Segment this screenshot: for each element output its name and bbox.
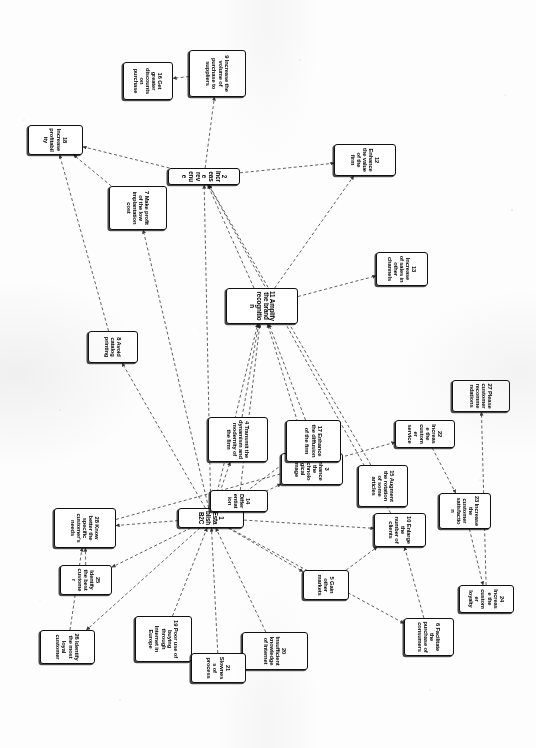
diagram-node-7[interactable]: 7 Make profit of the low implantation co… <box>109 186 167 230</box>
diagram-node-label: 13 Increase of sales in other channels <box>387 255 418 283</box>
diagram-node-17[interactable]: 17 Enhance the diffusion of the firm <box>286 420 341 462</box>
diagram-node-label: 12 Enhance the value of the firm <box>350 147 381 173</box>
diagram-canvas: 1 Establish B2C2 Increase revenue3 Enhan… <box>0 0 536 748</box>
diagram-node-label: 11 Amplify the brand recognition <box>249 291 276 321</box>
diagram-node-27[interactable]: 27 Please customer recommendations <box>452 380 510 412</box>
diagram-node-label: 17 Enhance the diffusion of the firm <box>304 423 322 459</box>
connector-n1-to-n8 <box>122 363 205 508</box>
diagram-node-label: 24 Increase the customer loyalty <box>468 588 505 610</box>
connector-n6-to-n10 <box>405 547 424 618</box>
diagram-node-label: 9 Increase the volume of purchase to sup… <box>205 53 230 94</box>
diagram-node-label: 22 Increase the customer service <box>407 423 444 445</box>
diagram-node-20[interactable]: 20 Insufficient knowledge of Internet <box>242 632 308 670</box>
diagram-node-4[interactable]: 4 Transmit the dynamism and modernity of… <box>208 417 268 462</box>
diagram-node-label: 6 Facilitate the purchase of consumers <box>417 621 442 653</box>
diagram-node-2[interactable]: 2 Increase revenue <box>168 168 240 185</box>
diagram-node-label: 21 Slowness of process <box>206 656 231 680</box>
diagram-node-label: 2 Increase revenue <box>181 171 228 182</box>
diagram-node-25[interactable]: 25 Identify the best customer <box>60 565 112 595</box>
diagram-node-23[interactable]: 23 Increase the customer satisfaction <box>439 493 491 529</box>
diagram-node-6[interactable]: 6 Facilitate the purchase of consumers <box>404 618 454 656</box>
connector-n23-to-n24 <box>469 529 483 585</box>
diagram-node-label: 18 Increase profitability <box>43 128 68 152</box>
diagram-node-label: 15 Augment the rotation of some articles <box>371 468 396 504</box>
connector-n11-to-n2 <box>208 185 254 288</box>
diagram-node-label: 4 Transmit the dynamism and modernity of… <box>226 420 251 459</box>
connector-n9-to-n16 <box>173 77 189 79</box>
connector-n1-to-n5 <box>228 528 303 572</box>
connector-n1-to-n7 <box>143 230 208 508</box>
diagram-node-26[interactable]: 26 Identify the most loyal customer <box>40 630 95 664</box>
connector-n17-to-n11 <box>269 324 306 420</box>
connector-n1-to-n25 <box>112 528 191 567</box>
connector-n11-to-n12 <box>275 176 354 288</box>
diagram-node-label: 20 Insufficient knowledge of Internet <box>263 635 288 667</box>
diagram-node-label: 16 Get greater discounts on purchase <box>133 65 164 97</box>
diagram-node-14[interactable]: 14 Differentiation <box>210 490 268 512</box>
diagram-node-label: 27 Please customer recommendations <box>469 383 494 409</box>
diagram-node-5[interactable]: 5 Gain other markets <box>303 570 349 600</box>
diagram-node-label: 28 Know better the specific customer's n… <box>70 511 101 545</box>
connector-n8-to-n18 <box>60 155 109 331</box>
connector-n11-to-n13 <box>298 276 376 297</box>
diagram-node-18[interactable]: 18 Increase profitability <box>28 125 83 155</box>
diagram-node-21[interactable]: 21 Slowness of process <box>191 653 246 683</box>
diagram-node-label: 7 Make profit of the low implantation co… <box>126 189 151 227</box>
diagram-node-label: 8 Avoid catalog printing <box>104 334 122 360</box>
diagram-node-11[interactable]: 11 Amplify the brand recognition <box>226 288 298 324</box>
connector-n5-to-n10 <box>346 547 377 570</box>
diagram-node-label: 5 Gain other markets <box>317 573 335 597</box>
diagram-node-24[interactable]: 24 Increase the customer loyalty <box>459 585 514 613</box>
diagram-node-15[interactable]: 15 Augment the rotation of some articles <box>358 465 408 507</box>
diagram-node-16[interactable]: 16 Get greater discounts on purchase <box>123 62 173 100</box>
scanned-page: 1 Establish B2C2 Increase revenue3 Enhan… <box>0 0 536 748</box>
diagram-node-label: 25 Identify the best customer <box>71 568 102 592</box>
diagram-node-9[interactable]: 9 Increase the volume of purchase to sup… <box>189 50 246 97</box>
diagram-node-label: 1 Establish B2C <box>198 511 225 525</box>
diagram-node-13[interactable]: 13 Increase of sales in other channels <box>376 252 428 286</box>
diagram-node-12[interactable]: 12 Enhance the value of the firm <box>334 144 396 176</box>
connector-n1-to-n10 <box>244 520 374 528</box>
connector-n1-to-n11 <box>213 324 257 508</box>
connector-n2-to-n18 <box>83 147 169 168</box>
connector-n19-to-n1 <box>173 528 208 616</box>
diagram-node-label: 10 Enlarge the number of clients <box>388 516 413 544</box>
diagram-node-22[interactable]: 22 Increase the customer service <box>395 420 455 448</box>
diagram-rotor: 1 Establish B2C2 Increase revenue3 Enhan… <box>0 0 536 748</box>
diagram-node-28[interactable]: 28 Know better the specific customer's n… <box>54 508 116 548</box>
diagram-node-8[interactable]: 8 Avoid catalog printing <box>88 331 138 363</box>
connector-n7-to-n18 <box>74 155 112 186</box>
connector-n2-to-n12 <box>240 163 334 173</box>
diagram-node-label: 19 Poor use of buying through Internet i… <box>148 619 179 659</box>
connector-n21-to-n1 <box>212 528 218 653</box>
connector-n2-to-n9 <box>205 97 214 168</box>
diagram-node-label: 14 Differentiation <box>227 493 252 509</box>
diagram-node-label: 26 Identify the most loyal customer <box>55 633 80 661</box>
diagram-node-label: 23 Increase the customer satisfaction <box>450 496 481 526</box>
connector-n22-to-n23 <box>432 448 455 493</box>
diagram-node-10[interactable]: 10 Enlarge the number of clients <box>374 513 426 547</box>
diagram-node-19[interactable]: 19 Poor use of buying through Internet i… <box>135 616 192 662</box>
connector-n1-to-n28 <box>116 521 178 526</box>
connector-n14-to-n11 <box>240 324 260 490</box>
